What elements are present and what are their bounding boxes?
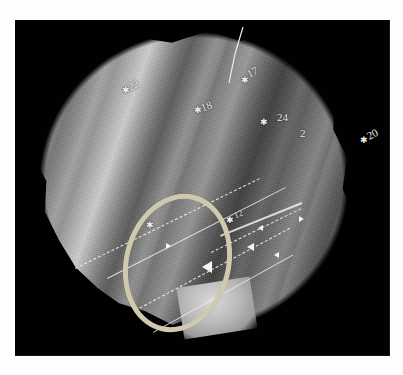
direction-marker	[299, 216, 304, 222]
annotation-label-24: 24	[277, 112, 288, 123]
direction-marker	[274, 252, 279, 258]
figure-container: ✱ ✱ ✱ ✱ ✱ ✱ ✱ 17 22 18 24 2 20 12	[0, 0, 403, 375]
direction-marker	[258, 225, 263, 231]
annotation-label-2: 2	[300, 128, 306, 139]
plot-canvas: ✱ ✱ ✱ ✱ ✱ ✱ ✱ 17 22 18 24 2 20 12	[15, 20, 390, 356]
site-marker-icon: ✱	[260, 118, 268, 127]
site-marker-icon: ✱	[226, 216, 234, 225]
site-marker-icon: ✱	[146, 221, 154, 230]
direction-marker	[247, 243, 254, 251]
